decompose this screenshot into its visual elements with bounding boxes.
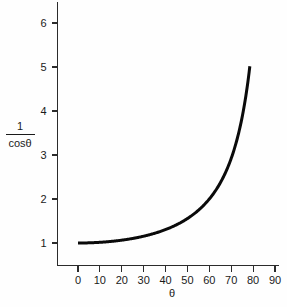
x-tick-label: 90 xyxy=(269,274,281,286)
y-tick-label: 3 xyxy=(40,149,46,161)
y-axis-title-numerator: 1 xyxy=(17,120,23,132)
x-tick-label: 60 xyxy=(203,274,215,286)
y-axis-title-denominator: cosθ xyxy=(8,137,31,149)
x-tick-label: 80 xyxy=(247,274,259,286)
y-tick-label: 1 xyxy=(40,237,46,249)
y-axis-title: 1 cosθ xyxy=(6,120,35,149)
y-tick-label: 5 xyxy=(40,61,46,73)
y-tick-label: 2 xyxy=(40,193,46,205)
axes-group xyxy=(58,2,280,266)
chart-container: 123456 0102030405060708090 1 cosθ θ xyxy=(0,0,287,307)
x-tick-label: 0 xyxy=(75,274,81,286)
x-axis-title: θ xyxy=(169,287,175,299)
x-tick-label: 10 xyxy=(94,274,106,286)
x-tick-label: 20 xyxy=(116,274,128,286)
x-tick-label: 50 xyxy=(181,274,193,286)
x-tick-label: 70 xyxy=(225,274,237,286)
data-curve-secant xyxy=(78,66,250,243)
y-axis-ticks xyxy=(52,23,58,243)
x-tick-label: 30 xyxy=(138,274,150,286)
y-tick-label: 4 xyxy=(40,105,46,117)
x-tick-label: 40 xyxy=(159,274,171,286)
x-axis-ticks xyxy=(78,266,275,272)
y-axis-tick-labels: 123456 xyxy=(40,17,46,249)
x-axis-tick-labels: 0102030405060708090 xyxy=(75,274,281,286)
secant-line-chart: 123456 0102030405060708090 1 cosθ θ xyxy=(0,0,287,307)
y-tick-label: 6 xyxy=(40,17,46,29)
